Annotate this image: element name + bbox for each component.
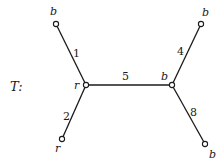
node-label-top-right: b xyxy=(202,6,209,19)
edge-weight-2: 2 xyxy=(63,110,70,123)
edge-weight-8: 8 xyxy=(190,106,197,119)
node-top-right xyxy=(198,21,203,26)
node-label-bottom-right: b xyxy=(209,148,216,161)
edge-weight-4: 4 xyxy=(177,45,184,58)
node-label-top-left: b xyxy=(50,5,57,18)
tree-diagram: T: 1 2 5 4 8 b r r b b b xyxy=(0,0,224,167)
node-label-center-right: b xyxy=(161,70,168,83)
node-top-left xyxy=(53,21,58,26)
tree-name-label: T: xyxy=(10,79,23,94)
node-label-bottom-left: r xyxy=(55,142,61,155)
edge-weight-1: 1 xyxy=(73,47,80,60)
edge-8 xyxy=(172,85,205,144)
node-center-left xyxy=(83,82,88,87)
node-bottom-left xyxy=(59,136,64,141)
node-center-right xyxy=(169,82,174,87)
edge-weight-5: 5 xyxy=(122,70,129,83)
node-bottom-right xyxy=(202,141,207,146)
node-label-center-left: r xyxy=(74,79,80,92)
edge-1 xyxy=(56,24,86,85)
